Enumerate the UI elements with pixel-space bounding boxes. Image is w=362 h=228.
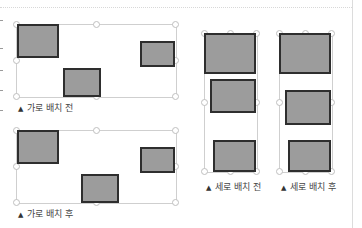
handle[interactable]: [172, 21, 179, 28]
rectangle-shape[interactable]: [210, 79, 256, 113]
handle[interactable]: [276, 168, 283, 175]
rectangle-shape[interactable]: [81, 174, 119, 203]
triangle-marker-icon: ▲: [18, 105, 23, 113]
handle[interactable]: [172, 199, 179, 206]
caption-vertical-before: ▲세로 배치 전: [206, 180, 261, 193]
handle[interactable]: [276, 99, 283, 106]
handle[interactable]: [13, 163, 20, 170]
triangle-marker-icon: ▲: [206, 184, 211, 192]
rectangle-shape[interactable]: [17, 130, 59, 164]
handle[interactable]: [172, 93, 179, 100]
handle[interactable]: [201, 99, 208, 106]
rectangle-shape[interactable]: [204, 33, 256, 74]
triangle-marker-icon: ▲: [281, 184, 286, 192]
rectangle-shape[interactable]: [285, 90, 331, 125]
caption-horizontal-before: ▲가로 배치 전: [18, 101, 73, 114]
handle[interactable]: [201, 168, 208, 175]
caption-vertical-after: ▲세로 배치 후: [281, 180, 336, 193]
rectangle-shape[interactable]: [140, 147, 175, 173]
top-divider: [0, 7, 352, 8]
triangle-marker-icon: ▲: [18, 211, 23, 219]
handle[interactable]: [172, 127, 179, 134]
rectangle-shape[interactable]: [213, 140, 256, 172]
rectangle-shape[interactable]: [279, 33, 331, 74]
rectangle-shape[interactable]: [140, 41, 175, 67]
handle[interactable]: [93, 127, 100, 134]
left-edge-marks: [0, 20, 4, 120]
handle[interactable]: [93, 21, 100, 28]
caption-horizontal-after: ▲가로 배치 후: [18, 207, 73, 220]
rectangle-shape[interactable]: [288, 140, 331, 172]
handle[interactable]: [13, 57, 20, 64]
handle[interactable]: [13, 199, 20, 206]
handle[interactable]: [13, 93, 20, 100]
rectangle-shape[interactable]: [63, 68, 101, 97]
rectangle-shape[interactable]: [17, 24, 59, 58]
right-divider: [352, 0, 353, 228]
